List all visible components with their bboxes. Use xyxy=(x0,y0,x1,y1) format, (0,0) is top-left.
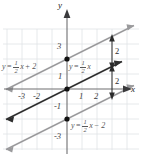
coordinate-plane xyxy=(0,0,142,159)
x-tick-1: 1 xyxy=(79,92,83,101)
y-tick--1: -1 xyxy=(54,102,61,111)
point-origin xyxy=(64,86,69,91)
eq-top-fraction: 1 2 xyxy=(13,60,18,75)
x-tick-2: 2 xyxy=(94,92,98,101)
eq-bot-tail: − 2 xyxy=(94,122,105,130)
eq-mid-fraction: 1 2 xyxy=(80,60,85,75)
eq-bot-lhs: y xyxy=(71,122,75,130)
eq-mid-var: x xyxy=(87,63,91,71)
dimension-label-lower: 2 xyxy=(115,77,119,86)
eq-top-var: x xyxy=(20,63,24,71)
y-tick--3: -3 xyxy=(54,132,61,141)
line-y-half-x-minus-2 xyxy=(6,84,134,152)
eq-bot-var: x xyxy=(89,122,93,130)
y-tick-3: 3 xyxy=(57,42,61,51)
eq-mid-lhs: y xyxy=(69,63,73,71)
equation-label-top: y = 1 2 x + 2 xyxy=(2,56,36,75)
equation-label-mid: y = 1 2 x xyxy=(69,56,91,75)
eq-bot-equals: = xyxy=(76,122,81,130)
x-tick--3: -3 xyxy=(18,92,25,101)
graph-figure: x y -3 -2 1 2 3 1 -1 -3 y = 1 2 x + 2 y … xyxy=(0,0,142,159)
point-0-neg2 xyxy=(64,116,69,121)
y-tick-1: 1 xyxy=(58,72,62,81)
eq-bot-fraction: 1 2 xyxy=(82,119,87,134)
eq-top-tail: + 2 xyxy=(25,63,36,71)
x-axis-label: x xyxy=(131,85,135,94)
dimension-label-upper: 2 xyxy=(115,47,119,56)
y-axis-label: y xyxy=(58,1,62,10)
equation-label-bottom: y = 1 2 x − 2 xyxy=(71,115,105,134)
dimension-arrow-lower xyxy=(109,64,115,100)
x-tick--2: -2 xyxy=(33,92,40,101)
eq-mid-equals: = xyxy=(74,63,79,71)
y-axis-arrow xyxy=(64,9,71,18)
eq-top-lhs: y xyxy=(2,63,6,71)
eq-top-equals: = xyxy=(7,63,12,71)
